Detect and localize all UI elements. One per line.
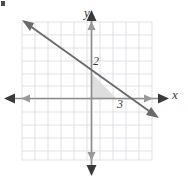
x-intercept-label: 3 (117, 98, 123, 110)
graph-figure: y x 2 3 (0, 0, 188, 181)
x-axis-outer-arrow-left (4, 94, 15, 104)
y-intercept-label: 2 (93, 55, 99, 67)
plotted-line-segment (28, 25, 153, 114)
y-axis-label: y (84, 6, 90, 19)
x-axis-label: x (172, 88, 178, 101)
coordinate-plane-svg (0, 0, 188, 181)
x-axis-outer-arrow-right (158, 94, 169, 104)
plotted-line-arrow-lower-right (146, 107, 159, 118)
y-axis-outer-arrow-down (87, 165, 97, 176)
grid-lines (22, 22, 152, 160)
axes (10, 13, 166, 172)
